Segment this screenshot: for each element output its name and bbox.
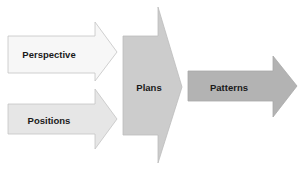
patterns-label: Patterns (210, 82, 248, 93)
perspective-label: Perspective (22, 49, 75, 60)
plans-label: Plans (136, 82, 161, 93)
positions-label: Positions (28, 115, 71, 126)
